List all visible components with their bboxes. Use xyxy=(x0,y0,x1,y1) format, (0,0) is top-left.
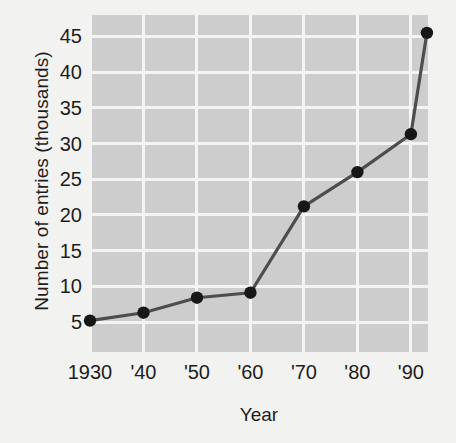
x-tick-label: '60 xyxy=(237,362,263,382)
data-point-marker xyxy=(405,128,417,140)
x-tick-label: '70 xyxy=(291,362,317,382)
x-axis-title: Year xyxy=(90,404,428,426)
plot-area xyxy=(90,15,428,352)
line-chart-figure: Number of entries (thousands) 5101520253… xyxy=(0,0,456,443)
data-point-marker xyxy=(191,292,203,304)
data-point-marker xyxy=(137,307,149,319)
x-tick-label: 1930 xyxy=(68,362,113,382)
y-axis-title: Number of entries (thousands) xyxy=(31,21,53,341)
data-point-marker xyxy=(84,314,96,326)
data-point-marker xyxy=(421,27,433,39)
data-point-marker xyxy=(298,200,310,212)
data-series-line xyxy=(90,15,428,352)
data-point-marker xyxy=(351,166,363,178)
data-point-marker xyxy=(244,287,256,299)
x-tick-label: '40 xyxy=(130,362,156,382)
x-tick-label: '90 xyxy=(398,362,424,382)
x-tick-label: '50 xyxy=(184,362,210,382)
x-tick-label: '80 xyxy=(344,362,370,382)
